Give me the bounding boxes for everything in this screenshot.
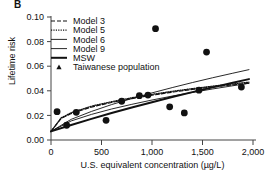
y-tick-label: 0.10 (26, 12, 44, 22)
data-point (118, 98, 125, 105)
data-point (145, 92, 152, 99)
data-point (203, 49, 210, 56)
x-axis-ticks: 05001,0001,5002,000 (48, 140, 264, 157)
y-axis-ticks: 0.000.020.040.060.080.10 (26, 12, 51, 145)
y-tick-label: 0.00 (26, 135, 44, 145)
legend: Model 3Model 5Model 6Model 9MSWTaiwanese… (51, 16, 160, 72)
x-tick-label: 0 (48, 147, 53, 157)
legend-label: Taiwanese population (73, 62, 160, 72)
data-point (103, 117, 110, 124)
data-point (136, 92, 143, 99)
y-tick-label: 0.06 (26, 61, 44, 71)
y-tick-label: 0.04 (26, 86, 44, 96)
data-point (63, 122, 70, 129)
data-point (166, 103, 173, 110)
figure-panel-b: B Lifetime risk U.S. equivalent concentr… (0, 0, 271, 174)
model-curves (51, 70, 249, 132)
y-tick-label: 0.02 (26, 111, 44, 121)
x-tick-label: 1,500 (191, 147, 214, 157)
data-point (54, 108, 61, 115)
data-point (196, 87, 203, 94)
curve-model-5 (51, 82, 249, 131)
legend-marker-triangle-icon (56, 65, 61, 70)
curve-msw (51, 79, 249, 131)
x-tick-label: 2,000 (242, 147, 265, 157)
data-point (181, 110, 188, 117)
y-tick-label: 0.08 (26, 37, 44, 47)
data-point (152, 25, 159, 32)
data-point (238, 84, 245, 91)
curve-model-6 (51, 83, 249, 131)
x-tick-label: 500 (94, 147, 109, 157)
curve-model-3 (51, 83, 249, 131)
data-point (73, 109, 80, 116)
x-tick-label: 1,000 (141, 147, 164, 157)
chart-canvas: 0.000.020.040.060.080.10 05001,0001,5002… (0, 0, 271, 174)
